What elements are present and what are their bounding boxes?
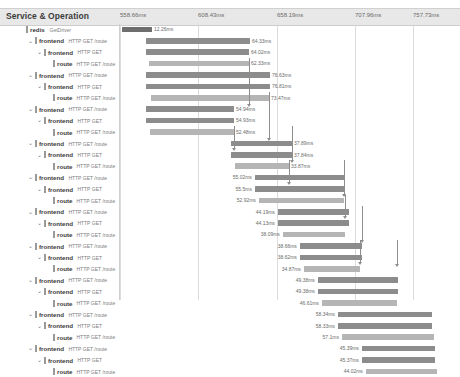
span-name-cell[interactable]: routeHTTP GET /route [0,195,122,206]
span-row[interactable]: ⌄frontendHTTP GET /route64.33ms [0,35,460,46]
span-row[interactable]: ⌄frontendHTTP GET54.93ms [0,115,460,126]
span-row[interactable]: ⌄frontendHTTP GET /route58.34ms [0,309,460,320]
span-duration-bar[interactable] [255,186,344,192]
span-duration-bar[interactable] [150,129,234,135]
span-row[interactable]: ⌄frontendHTTP GET58.33ms [0,320,460,331]
span-name-cell[interactable]: ⌄frontendHTTP GET /route [0,241,122,252]
span-name-cell[interactable]: ⌄frontendHTTP GET [0,252,122,263]
span-row[interactable]: ⌄frontendHTTP GET64.02ms [0,47,460,58]
span-name-cell[interactable]: ⌄frontendHTTP GET /route [0,206,122,217]
chevron-down-icon[interactable]: ⌄ [37,287,42,296]
span-row[interactable]: routeHTTP GET /route33.87ms [0,161,460,172]
chevron-down-icon[interactable]: ⌄ [37,185,42,194]
span-name-cell[interactable]: routeHTTP GET /route [0,298,122,309]
span-name-cell[interactable]: ⌄frontendHTTP GET /route [0,104,122,115]
span-name-cell[interactable]: routeHTTP GET /route [0,332,122,343]
chevron-down-icon[interactable]: ⌄ [28,242,33,251]
chevron-down-icon[interactable]: ⌄ [37,219,42,228]
chevron-down-icon[interactable]: ⌄ [37,116,42,125]
chevron-down-icon[interactable]: ⌄ [37,151,42,160]
span-duration-bar[interactable] [255,175,344,181]
span-name-cell[interactable]: redisGetDriver [0,24,122,35]
span-name-cell[interactable]: ⌄frontendHTTP GET [0,115,122,126]
span-row[interactable]: ⌄frontendHTTP GET38.62ms [0,252,460,263]
chevron-down-icon[interactable]: ⌄ [37,48,42,57]
span-row[interactable]: ⌄frontendHTTP GET55.5ms [0,184,460,195]
span-name-cell[interactable]: routeHTTP GET /route [0,366,122,377]
span-name-cell[interactable]: routeHTTP GET /route [0,229,122,240]
span-duration-bar[interactable] [146,49,249,55]
span-duration-bar[interactable] [231,141,292,147]
span-row[interactable]: routeHTTP GET /route57.1ms [0,332,460,343]
span-duration-bar[interactable] [366,369,437,375]
span-row[interactable]: routeHTTP GET /route62.33ms [0,58,460,69]
span-duration-bar[interactable] [146,72,270,78]
span-duration-bar[interactable] [149,61,249,67]
span-name-cell[interactable]: ⌄frontendHTTP GET [0,184,122,195]
span-name-cell[interactable]: routeHTTP GET /route [0,58,122,69]
span-row[interactable]: ⌄frontendHTTP GET37.84ms [0,149,460,160]
chevron-down-icon[interactable]: ⌄ [37,82,42,91]
span-duration-bar[interactable] [318,289,398,295]
span-name-cell[interactable]: ⌄frontendHTTP GET [0,81,122,92]
chevron-down-icon[interactable]: ⌄ [37,322,42,331]
span-duration-bar[interactable] [338,312,432,318]
span-name-cell[interactable]: ⌄frontendHTTP GET /route [0,35,122,46]
span-duration-bar[interactable] [146,118,234,124]
span-duration-bar[interactable] [322,300,397,306]
span-name-cell[interactable]: ⌄frontendHTTP GET /route [0,138,122,149]
span-name-cell[interactable]: ⌄frontendHTTP GET [0,320,122,331]
span-name-cell[interactable]: ⌄frontendHTTP GET [0,355,122,366]
chevron-down-icon[interactable]: ⌄ [37,253,42,262]
chevron-down-icon[interactable]: ⌄ [28,105,33,114]
chevron-down-icon[interactable]: ⌄ [28,310,33,319]
span-duration-bar[interactable] [231,152,292,158]
span-row[interactable]: routeHTTP GET /route44.02ms [0,366,460,377]
span-row[interactable]: ⌄frontendHTTP GET /route49.38ms [0,275,460,286]
chevron-down-icon[interactable]: ⌄ [37,356,42,365]
span-row[interactable]: routeHTTP GET /route38.09ms [0,229,460,240]
span-name-cell[interactable]: ⌄frontendHTTP GET [0,149,122,160]
span-duration-bar[interactable] [304,266,360,272]
span-row[interactable]: ⌄frontendHTTP GET /route38.66ms [0,241,460,252]
span-row[interactable]: routeHTTP GET /route73.47ms [0,92,460,103]
chevron-down-icon[interactable]: ⌄ [28,276,33,285]
chevron-down-icon[interactable]: ⌄ [28,344,33,353]
span-duration-bar[interactable] [283,232,345,238]
span-name-cell[interactable]: ⌄frontendHTTP GET /route [0,343,122,354]
span-duration-bar[interactable] [235,163,289,169]
span-name-cell[interactable]: ⌄frontendHTTP GET /route [0,275,122,286]
span-duration-bar[interactable] [146,38,250,44]
span-name-cell[interactable]: routeHTTP GET /route [0,263,122,274]
span-duration-bar[interactable] [146,84,270,90]
span-duration-bar[interactable] [318,277,398,283]
span-name-cell[interactable]: ⌄frontendHTTP GET /route [0,70,122,81]
span-row[interactable]: routeHTTP GET /route34.87ms [0,263,460,274]
span-duration-bar[interactable] [146,106,234,112]
span-duration-bar[interactable] [259,198,344,204]
span-duration-bar[interactable] [278,209,349,215]
span-row[interactable]: routeHTTP GET /route52.92ms [0,195,460,206]
span-row[interactable]: routeHTTP GET /route46.61ms [0,298,460,309]
span-duration-bar[interactable] [300,255,362,261]
span-duration-bar[interactable] [338,323,432,329]
span-name-cell[interactable]: ⌄frontendHTTP GET /route [0,172,122,183]
span-row[interactable]: ⌄frontendHTTP GET45.37ms [0,355,460,366]
span-row[interactable]: routeHTTP GET /route52.48ms [0,127,460,138]
span-duration-bar[interactable] [278,220,349,226]
span-row[interactable]: ⌄frontendHTTP GET49.38ms [0,286,460,297]
span-duration-bar[interactable] [362,357,435,363]
span-duration-bar[interactable] [122,27,152,33]
span-row[interactable]: ⌄frontendHTTP GET /route76.63ms [0,70,460,81]
span-row[interactable]: ⌄frontendHTTP GET /route44.19ms [0,206,460,217]
span-duration-bar[interactable] [151,95,269,101]
chevron-down-icon[interactable]: ⌄ [28,71,33,80]
span-row[interactable]: ⌄frontendHTTP GET /route45.39ms [0,343,460,354]
span-name-cell[interactable]: routeHTTP GET /route [0,127,122,138]
span-name-cell[interactable]: routeHTTP GET /route [0,161,122,172]
span-name-cell[interactable]: routeHTTP GET /route [0,92,122,103]
span-duration-bar[interactable] [362,346,435,352]
span-row[interactable]: ⌄frontendHTTP GET /route55.02ms [0,172,460,183]
chevron-down-icon[interactable]: ⌄ [28,139,33,148]
span-row[interactable]: redisGetDriver12.26ms [0,24,460,35]
